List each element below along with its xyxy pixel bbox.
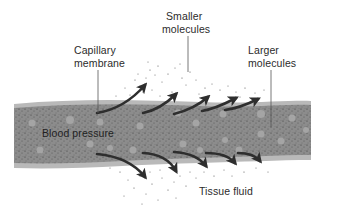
label-smaller-line1: Smaller	[162, 10, 210, 23]
label-larger-molecules: Larger molecules	[248, 44, 296, 70]
label-smaller-molecules: Smaller molecules	[162, 10, 210, 36]
label-capillary-membrane: Capillary membrane	[74, 44, 125, 70]
label-larger-line1: Larger	[248, 44, 296, 57]
label-tissue-fluid: Tissue fluid	[199, 185, 253, 198]
label-capillary-line2: membrane	[74, 57, 125, 70]
capillary-filtration-diagram: Capillary membrane Smaller molecules Lar…	[0, 0, 339, 209]
label-blood-pressure: Blood pressure	[42, 127, 114, 140]
label-smaller-line2: molecules	[162, 23, 210, 36]
label-larger-line2: molecules	[248, 57, 296, 70]
label-capillary-line1: Capillary	[74, 44, 125, 57]
